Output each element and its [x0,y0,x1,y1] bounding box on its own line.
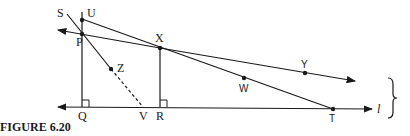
right-angle-q [82,100,89,107]
point-w [242,76,246,80]
point-u [80,18,84,22]
curly-brace-icon [388,78,397,118]
right-angle-r [160,100,167,107]
geometry-figure: S U P X Z Q V R W Y T l FIGURE 6.20 [0,0,410,136]
segment-zv-dashed [111,69,143,107]
label-z: Z [117,61,124,75]
segment-sz [67,14,111,69]
label-q: Q [78,109,87,123]
line-l [58,107,215,108]
label-y: Y [301,59,308,70]
label-line-l: l [377,102,381,116]
label-s: S [57,6,64,20]
label-t: T [329,113,335,124]
point-y [303,71,307,75]
label-w: W [239,83,249,94]
label-r: R [156,109,164,123]
label-x: X [155,31,164,45]
point-z [109,67,113,71]
line-xy-right [160,48,355,81]
figure-caption: FIGURE 6.20 [0,120,71,134]
label-v: V [139,109,148,123]
line-px-left [58,30,160,48]
label-p: P [76,35,83,49]
line-l-right [215,108,372,109]
point-x [158,46,162,50]
label-u: U [87,6,96,20]
point-t [331,107,335,111]
